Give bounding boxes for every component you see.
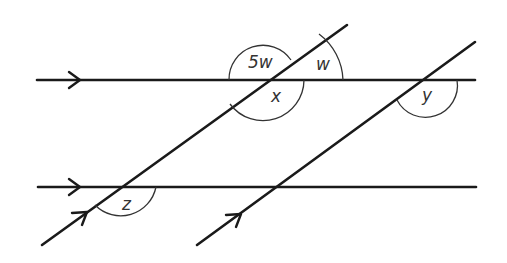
angle-label-y: y [421, 85, 433, 105]
angle-label-x: x [270, 86, 282, 106]
parallel-lines-diagram: 5w w x y z [0, 0, 507, 263]
angle-label-z: z [121, 194, 132, 214]
angle-label-5w: 5w [248, 52, 273, 72]
angle-label-w: w [316, 54, 330, 74]
